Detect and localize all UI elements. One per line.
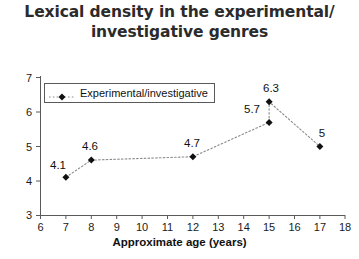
x-tick-label: 6 [37, 221, 43, 233]
plot-area: 3 4 5 6 7 6 7 8 9 10 11 12 13 14 15 16 1… [0, 0, 359, 259]
x-tick-label: 7 [63, 221, 69, 233]
data-point-marker[interactable] [62, 174, 69, 181]
legend-marker-icon [49, 88, 75, 98]
y-tick-label: 4 [16, 175, 32, 187]
chart-page: Lexical density in the experimental/ inv… [0, 0, 359, 259]
legend-entry-label: Experimental/investigative [80, 87, 208, 99]
data-point-marker[interactable] [266, 119, 273, 126]
x-tick-label: 16 [288, 221, 300, 233]
x-tick-label: 8 [88, 221, 94, 233]
data-point-marker[interactable] [189, 153, 196, 160]
data-point-label: 4.6 [82, 140, 98, 152]
y-tick-marks [36, 78, 40, 216]
y-tick-label: 3 [16, 209, 32, 221]
x-tick-label: 15 [263, 221, 275, 233]
x-tick-label: 17 [314, 221, 326, 233]
data-point-label: 4.1 [50, 159, 66, 171]
x-axis-title: Approximate age (years) [0, 236, 359, 248]
y-tick-label: 6 [16, 106, 32, 118]
y-tick-label: 5 [16, 141, 32, 153]
chart-legend[interactable]: Experimental/investigative [44, 83, 215, 103]
x-tick-label: 14 [238, 221, 250, 233]
data-point-label: 5.7 [244, 103, 260, 115]
x-tick-label: 11 [162, 221, 173, 233]
y-tick-label: 7 [16, 72, 32, 84]
x-tick-label: 12 [187, 221, 199, 233]
data-point-label: 5 [319, 127, 325, 139]
chart-canvas [0, 0, 359, 259]
x-tick-label: 9 [114, 221, 120, 233]
x-tick-label: 10 [136, 221, 148, 233]
x-tick-label: 13 [212, 221, 224, 233]
data-point-marker[interactable] [88, 157, 95, 164]
data-point-label: 4.7 [184, 137, 200, 149]
x-tick-label: 18 [339, 221, 351, 233]
data-point-label: 6.3 [263, 82, 279, 94]
